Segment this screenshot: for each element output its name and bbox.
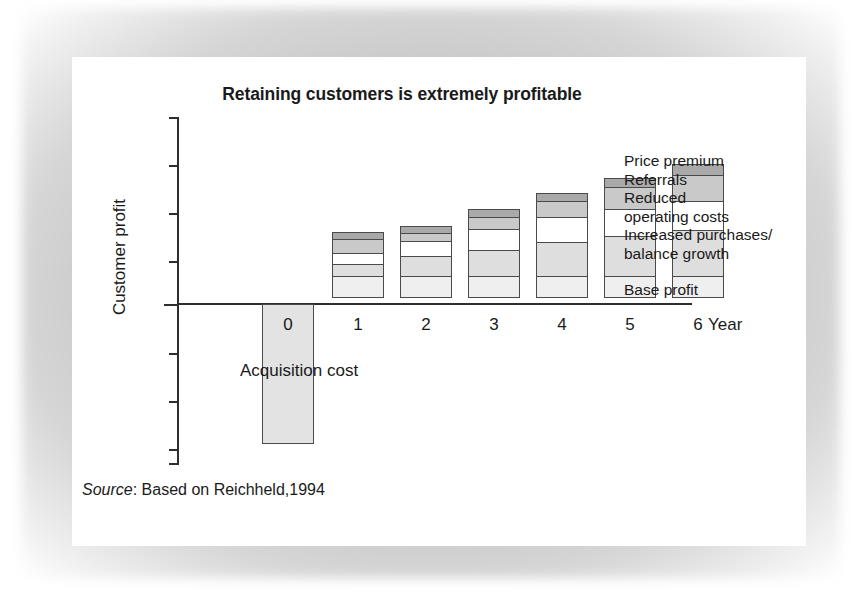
source-note: Source: Based on Reichheld,1994 <box>82 481 325 499</box>
x-axis-label-0: 0 <box>258 315 318 335</box>
legend-entry-price-premium: Price premium <box>624 152 809 171</box>
bar-year-2-segment-reduced-op-costs <box>400 241 452 257</box>
x-axis-label-2: 2 <box>396 315 456 335</box>
legend-entry-balance-growth: balance growth <box>624 245 809 264</box>
legend-entry-increased-purchases: Increased purchases/ <box>624 226 809 245</box>
source-citation: : Based on Reichheld,1994 <box>133 481 325 498</box>
x-axis-title: Year <box>708 315 742 335</box>
scanned-figure-page: Retaining customers is extremely profita… <box>0 0 865 595</box>
bar-year-3-segment-reduced-op-costs <box>468 229 520 251</box>
bar-year-3 <box>468 209 520 304</box>
legend-entry-referrals: Referrals <box>624 171 809 190</box>
bar-year-4-segment-reduced-op-costs <box>536 217 588 243</box>
bar-year-2 <box>400 226 452 304</box>
bar-year-2-segment-increased-purchases <box>400 256 452 278</box>
legend-entry-operating-costs: operating costs <box>624 208 809 227</box>
bar-year-1 <box>332 232 384 304</box>
acquisition-cost-annotation: Acquisition cost <box>240 361 358 381</box>
bar-year-3-segment-increased-purchases <box>468 250 520 278</box>
plot-area <box>72 57 806 546</box>
x-axis-label-3: 3 <box>464 315 524 335</box>
bar-year-4-segment-base-profit <box>536 276 588 298</box>
legend-entry-reduced: Reduced <box>624 189 809 208</box>
legend-entry-base-profit: Base profit <box>624 281 809 300</box>
source-label: Source <box>82 481 133 498</box>
x-axis-label-4: 4 <box>532 315 592 335</box>
chart-legend: Price premiumReferralsReducedoperating c… <box>624 152 809 300</box>
bar-year-1-segment-base-profit <box>332 276 384 298</box>
bar-year-3-segment-base-profit <box>468 276 520 298</box>
bar-year-2-segment-base-profit <box>400 276 452 298</box>
chart-figure: Retaining customers is extremely profita… <box>72 57 806 546</box>
x-axis-label-5: 5 <box>600 315 660 335</box>
bar-year-1-segment-referrals <box>332 239 384 255</box>
bar-year-4 <box>536 193 588 304</box>
bar-year-4-segment-increased-purchases <box>536 242 588 278</box>
bar-year-4-segment-referrals <box>536 201 588 219</box>
x-axis-label-1: 1 <box>328 315 388 335</box>
